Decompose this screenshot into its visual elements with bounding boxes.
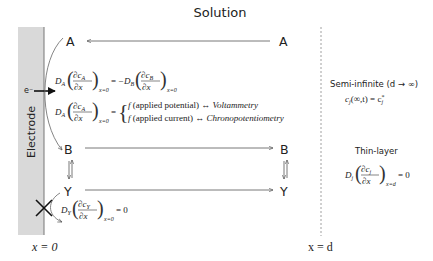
svg-text:∂x: ∂x — [79, 211, 87, 221]
flux-condition-equation: DA ( ∂cA ∂x ) x=0 = { f (applied potenti… — [54, 99, 284, 124]
flux-balance-equation: DA ( ∂cA ∂x ) x=0 = − DB ( ∂cB ∂x ) x=0 — [54, 68, 177, 93]
species-b-right: B — [280, 142, 289, 157]
svg-text:∂x: ∂x — [142, 82, 150, 92]
thin-layer-equation: Dj ( ∂cj ∂x ) x=d = 0 — [344, 162, 410, 187]
equilibrium-arrows-right-icon — [284, 160, 287, 179]
svg-text:x=0: x=0 — [166, 87, 177, 93]
semi-infinite-label: Semi-infinite (d → ∞) — [330, 79, 418, 89]
svg-text:Dj: Dj — [344, 170, 354, 181]
svg-text:= 0: = 0 — [398, 170, 410, 180]
electrode-label: Electrode — [25, 106, 38, 158]
svg-text:{: { — [118, 99, 129, 124]
svg-text:f (applied potential): f (applied potential) ↔ Voltammetry — [128, 100, 258, 110]
svg-text:∂cY: ∂cY — [78, 199, 90, 210]
equilibrium-arrows-left-icon — [69, 160, 72, 179]
species-y-left: Y — [63, 184, 72, 199]
svg-text:∂x: ∂x — [74, 113, 82, 123]
svg-text:∂x: ∂x — [362, 176, 370, 186]
svg-text:DB: DB — [123, 76, 135, 87]
svg-text:): ) — [92, 68, 99, 91]
svg-text:): ) — [92, 99, 99, 122]
species-y-right: Y — [279, 184, 288, 199]
svg-text:∂cA: ∂cA — [73, 101, 85, 112]
svg-text:x=0: x=0 — [98, 118, 109, 124]
solution-title: Solution — [194, 5, 247, 20]
svg-text:DY: DY — [60, 205, 72, 216]
svg-text:= 0: = 0 — [116, 205, 128, 215]
x-zero-label: x = 0 — [31, 240, 57, 254]
svg-text:): ) — [97, 197, 104, 220]
thin-layer-label: Thin-layer — [354, 146, 398, 156]
x-d-label: x = d — [308, 240, 333, 254]
svg-text:∂x: ∂x — [74, 82, 82, 92]
svg-text:= −: = − — [111, 76, 123, 86]
y-flux-equation: DY ( ∂cY ∂x ) x=0 = 0 — [60, 197, 128, 222]
svg-text:): ) — [160, 68, 167, 91]
species-a-left: A — [66, 34, 75, 49]
svg-text:x=0: x=0 — [103, 216, 114, 222]
diffusion-boundary-diagram: Solution Electrode e⁻ A B Y A B Y DA ( ∂… — [0, 0, 433, 261]
reduction-curve-arrow-icon — [45, 38, 63, 150]
svg-text:DA: DA — [54, 107, 66, 118]
svg-text:∂cB: ∂cB — [141, 70, 153, 81]
species-a-right: A — [279, 34, 288, 49]
svg-text:f (applied current): f (applied current) ↔ Chronopotentiometr… — [128, 113, 284, 123]
semi-infinite-equation: cj(∞,t) = c*j — [345, 94, 384, 105]
svg-text:x=0: x=0 — [98, 87, 109, 93]
svg-text:∂cj: ∂cj — [361, 164, 371, 175]
svg-text:DA: DA — [54, 76, 66, 87]
species-b-left: B — [64, 142, 73, 157]
svg-text:∂cA: ∂cA — [73, 70, 85, 81]
svg-text:=: = — [111, 107, 116, 117]
svg-text:x=d: x=d — [385, 181, 397, 187]
electron-symbol: e⁻ — [24, 86, 33, 95]
svg-text:): ) — [379, 162, 386, 185]
